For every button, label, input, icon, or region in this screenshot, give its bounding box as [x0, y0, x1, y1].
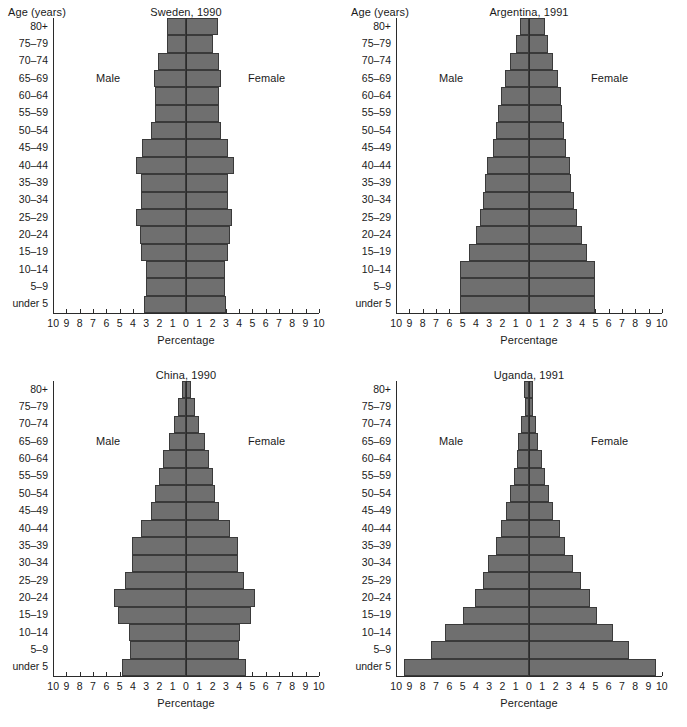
- age-group-label: 40–44: [0, 522, 48, 534]
- bar-female: [529, 157, 570, 174]
- x-axis-tick: [252, 309, 253, 313]
- age-group-label: 15–19: [343, 608, 391, 620]
- x-axis-tick: [66, 309, 67, 313]
- bar-female: [529, 607, 597, 624]
- x-axis-tick: [93, 672, 94, 676]
- bar-female: [529, 139, 566, 156]
- age-group-label: 5–9: [0, 643, 48, 655]
- bar-female: [529, 122, 564, 139]
- bar-female: [186, 641, 239, 658]
- bar-male: [496, 537, 529, 554]
- age-group-label: 10–14: [343, 263, 391, 275]
- x-axis-tick: [319, 672, 320, 676]
- bar-male: [159, 468, 186, 485]
- bar-male: [178, 398, 186, 415]
- bar-male: [404, 659, 529, 676]
- x-axis-tick: [306, 672, 307, 676]
- age-group-label: 15–19: [0, 245, 48, 257]
- age-group-label: 35–39: [0, 176, 48, 188]
- age-group-label: 5–9: [343, 643, 391, 655]
- age-group-label: 55–59: [343, 469, 391, 481]
- bar-male: [445, 624, 529, 641]
- x-axis-tick: [120, 309, 121, 313]
- bar-male: [510, 485, 529, 502]
- x-axis-tick: [306, 309, 307, 313]
- bar-male: [167, 35, 186, 52]
- bar-male: [506, 502, 529, 519]
- bar-female: [529, 35, 548, 52]
- age-group-label: 25–29: [343, 211, 391, 223]
- x-axis-tick: [252, 672, 253, 676]
- bar-female: [529, 450, 542, 467]
- chart-title: China, 1990: [106, 369, 266, 381]
- bar-male: [510, 53, 529, 70]
- x-axis-tick: [423, 309, 424, 313]
- bar-male: [483, 572, 529, 589]
- x-axis-tick: [80, 309, 81, 313]
- bar-female: [186, 87, 219, 104]
- x-axis-tick: [106, 309, 107, 313]
- bar-female: [186, 18, 218, 35]
- bar-male: [505, 70, 529, 87]
- age-group-label: 30–34: [0, 556, 48, 568]
- bar-male: [485, 174, 529, 191]
- y-axis-line: [53, 18, 54, 313]
- center-axis-line: [529, 381, 530, 676]
- age-group-label: 40–44: [343, 522, 391, 534]
- bar-male: [142, 139, 186, 156]
- bar-female: [529, 572, 581, 589]
- bar-male: [158, 53, 186, 70]
- age-group-label: 75–79: [0, 37, 48, 49]
- bar-male: [136, 209, 186, 226]
- bar-male: [460, 296, 529, 313]
- male-label: Male: [96, 72, 120, 84]
- bar-male: [140, 226, 186, 243]
- chart-panel-4: Uganda, 19911098765432101234567891080+75…: [343, 363, 687, 727]
- bar-female: [529, 589, 590, 606]
- population-pyramid-figure: Age (years)Sweden, 199010987654321012345…: [0, 0, 687, 727]
- bar-male: [496, 122, 529, 139]
- age-group-label: 70–74: [0, 54, 48, 66]
- age-group-label: 50–54: [0, 124, 48, 136]
- x-axis-tick: [662, 309, 663, 313]
- age-group-label: 45–49: [0, 141, 48, 153]
- bar-male: [141, 520, 186, 537]
- bar-female: [529, 18, 545, 35]
- x-axis-tick: [53, 309, 54, 313]
- age-group-label: 35–39: [343, 176, 391, 188]
- x-axis-tick: [635, 309, 636, 313]
- x-axis-label: Percentage: [126, 697, 246, 709]
- age-group-label: 20–24: [0, 228, 48, 240]
- bar-female: [186, 607, 251, 624]
- x-axis-label: Percentage: [126, 334, 246, 346]
- bar-female: [529, 87, 561, 104]
- bar-female: [186, 589, 255, 606]
- chart-panel-1: Age (years)Sweden, 199010987654321012345…: [0, 0, 343, 363]
- chart-title: Sweden, 1990: [106, 6, 266, 18]
- age-group-label: 60–64: [0, 452, 48, 464]
- chart-panel-3: China, 19901098765432101234567891080+75–…: [0, 363, 343, 727]
- x-axis-tick: [226, 309, 227, 313]
- age-group-label: 55–59: [0, 106, 48, 118]
- age-group-label: 50–54: [0, 487, 48, 499]
- x-axis-tick: [622, 309, 623, 313]
- bar-male: [154, 70, 186, 87]
- x-axis-line: [53, 676, 319, 677]
- bar-male: [146, 278, 186, 295]
- age-group-label: 15–19: [0, 608, 48, 620]
- bar-male: [488, 555, 529, 572]
- bar-male: [501, 520, 529, 537]
- bar-male: [480, 209, 529, 226]
- bar-male: [169, 433, 186, 450]
- bar-male: [141, 192, 186, 209]
- x-axis-tick: [396, 309, 397, 313]
- bar-male: [174, 416, 186, 433]
- y-axis-line: [396, 381, 397, 676]
- bar-male: [114, 589, 186, 606]
- age-group-label: 75–79: [343, 37, 391, 49]
- bar-female: [186, 226, 230, 243]
- age-group-label: 25–29: [0, 574, 48, 586]
- bar-female: [186, 416, 199, 433]
- bar-male: [118, 607, 186, 624]
- bar-female: [186, 157, 234, 174]
